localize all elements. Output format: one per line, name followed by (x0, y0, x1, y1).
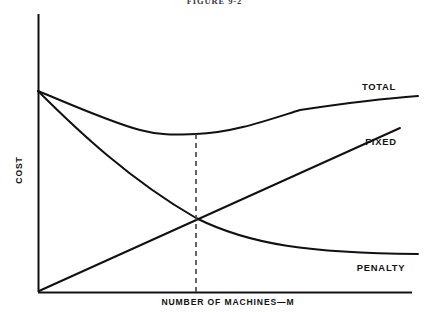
total-curve-label: TOTAL (362, 81, 396, 92)
fixed-curve-label: FIXED (365, 136, 396, 147)
penalty-curve-label: PENALTY (357, 262, 405, 273)
x-axis-title: NUMBER OF MACHINES—M (161, 297, 294, 307)
figure-container: FIGURE 9-2 TOTAL FIXED PENALTY NUMBER OF… (0, 0, 429, 312)
total-cost-curve (38, 91, 418, 135)
fixed-cost-line (39, 128, 400, 291)
y-axis-title: COST (14, 156, 24, 183)
chart-plot-area: TOTAL FIXED PENALTY NUMBER OF MACHINES—M… (0, 0, 429, 312)
penalty-cost-curve (38, 91, 418, 254)
